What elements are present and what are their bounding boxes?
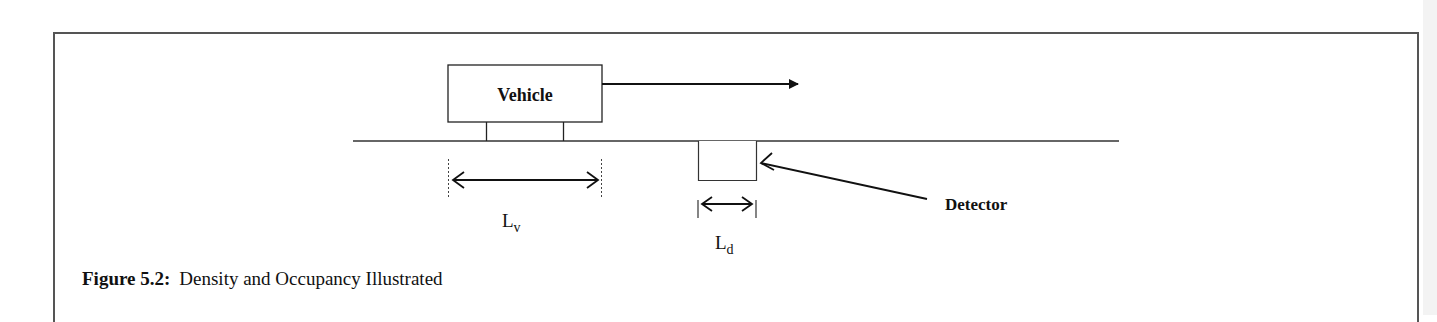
vehicle-label: Vehicle bbox=[497, 85, 552, 105]
detector-length-label: Ld bbox=[715, 232, 734, 257]
figure-caption-text: Density and Occupancy Illustrated bbox=[179, 268, 442, 289]
vehicle-length-arrow bbox=[453, 172, 598, 188]
detector-box bbox=[699, 141, 757, 181]
vehicle-length-label: Lv bbox=[502, 210, 521, 235]
detector-pointer-arrow bbox=[761, 153, 927, 199]
figure-caption: Figure 5.2:Density and Occupancy Illustr… bbox=[82, 268, 443, 290]
detector-label: Detector bbox=[945, 195, 1008, 214]
figure-caption-label: Figure 5.2: bbox=[82, 268, 170, 289]
detector-length-arrow bbox=[702, 197, 752, 211]
